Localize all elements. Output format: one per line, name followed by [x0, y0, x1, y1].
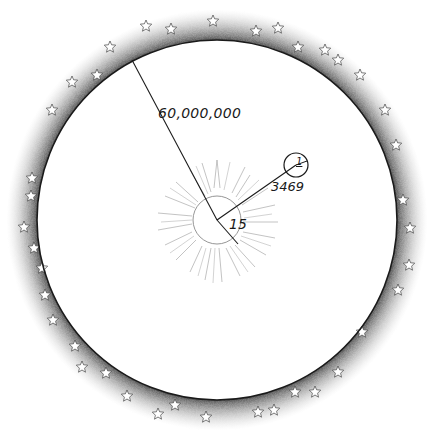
small-body-radius-label: 1	[296, 157, 302, 167]
outer-radius-label: 60,000,000	[158, 106, 241, 120]
scale-diagram	[0, 0, 435, 438]
sun-radius-label: 15	[229, 217, 247, 231]
small-body-distance-label: 3469	[271, 180, 304, 193]
